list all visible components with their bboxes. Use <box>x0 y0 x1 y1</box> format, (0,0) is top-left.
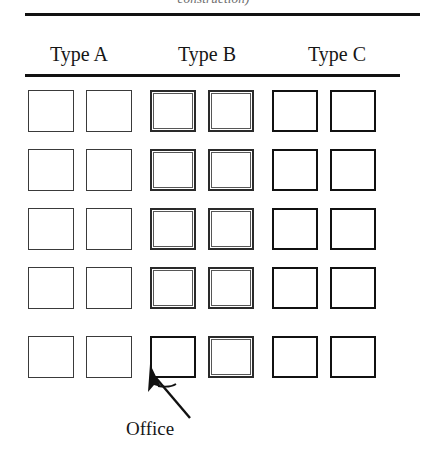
unit-cell <box>86 336 132 378</box>
clipped-caption: construction) <box>0 0 427 7</box>
column-header-type-a: Type A <box>50 43 108 65</box>
unit-cell <box>272 267 318 309</box>
unit-inner-outline <box>153 211 193 247</box>
unit-cell <box>150 267 196 309</box>
unit-cell <box>150 336 196 378</box>
office-annotation-label: Office <box>126 418 174 440</box>
unit-inner-outline <box>211 211 251 247</box>
unit-cell <box>86 149 132 191</box>
unit-cell <box>208 208 254 250</box>
header-rule <box>25 74 400 77</box>
unit-cell <box>330 267 376 309</box>
unit-inner-outline <box>211 93 251 129</box>
unit-cell <box>272 149 318 191</box>
unit-cell <box>86 267 132 309</box>
unit-cell <box>86 90 132 132</box>
unit-cell <box>150 149 196 191</box>
unit-cell <box>208 90 254 132</box>
unit-cell <box>330 208 376 250</box>
unit-cell <box>150 208 196 250</box>
unit-cell <box>330 90 376 132</box>
floor-plan-figure: construction) Type A Type B Type C Offic… <box>0 0 427 454</box>
unit-cell <box>86 208 132 250</box>
unit-inner-outline <box>211 339 251 375</box>
unit-cell <box>272 90 318 132</box>
top-rule <box>25 13 420 16</box>
unit-cell <box>272 336 318 378</box>
unit-cell <box>330 149 376 191</box>
unit-cell <box>28 149 74 191</box>
unit-inner-outline <box>153 152 193 188</box>
unit-cell <box>28 336 74 378</box>
unit-inner-outline <box>153 93 193 129</box>
unit-cell <box>28 267 74 309</box>
unit-cell <box>208 267 254 309</box>
unit-cell <box>208 149 254 191</box>
unit-cell <box>28 90 74 132</box>
unit-cell <box>330 336 376 378</box>
unit-inner-outline <box>211 152 251 188</box>
unit-cell <box>272 208 318 250</box>
unit-cell <box>28 208 74 250</box>
unit-cell <box>150 90 196 132</box>
unit-cell <box>208 336 254 378</box>
unit-inner-outline <box>211 270 251 306</box>
unit-inner-outline <box>153 270 193 306</box>
column-header-type-c: Type C <box>308 43 366 65</box>
column-header-type-b: Type B <box>178 43 236 65</box>
